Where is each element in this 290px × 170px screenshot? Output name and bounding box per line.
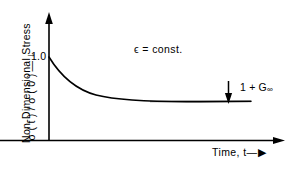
stress-relaxation-curve (49, 57, 251, 102)
y-axis (45, 12, 53, 141)
asymptote-arrow-head (225, 93, 232, 104)
x-axis-label-text: Time, t (212, 146, 247, 158)
asymptote-value-prefix: 1 + G (240, 81, 267, 93)
x-axis-label: Time, t—▶ (212, 146, 267, 158)
asymptote-value-subscript: ∞ (267, 85, 273, 94)
asymptote-pointer-arrow (225, 81, 232, 104)
asymptote-value-annotation: 1 + G∞ (240, 81, 273, 94)
strain-condition-annotation: ϵ = const. (134, 43, 183, 55)
x-axis-arrowhead (273, 137, 285, 144)
y-axis-label-dash: — (25, 61, 37, 72)
y-axis-arrowhead (45, 12, 53, 24)
x-axis-direction-arrow-icon: ▶ (258, 147, 266, 158)
y-axis-tick-label-1-0: 1.0 (31, 50, 46, 62)
y-axis-label-inner: σ ( t ) / σ ( 0 )—→ (25, 19, 37, 169)
stress-relaxation-figure: Non-Dimensional Stress σ ( t ) / σ ( 0 )… (0, 0, 290, 170)
y-axis-label-inner-text: σ ( t ) / σ ( 0 ) (25, 74, 37, 141)
x-axis (0, 137, 285, 144)
x-axis-label-dash: — (247, 146, 258, 158)
